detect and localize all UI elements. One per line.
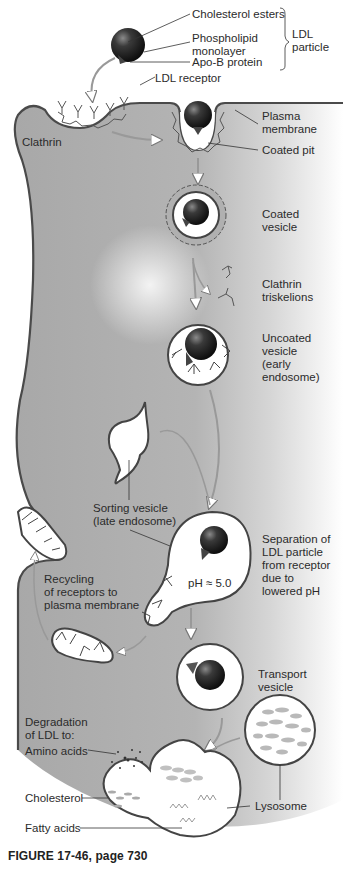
arrow-down-to-pit	[91, 58, 115, 98]
label-phospholipid-monolayer: Phospholipid monolayer	[192, 32, 258, 58]
ldl-particle-in-pit-icon	[184, 101, 212, 129]
label-coated-vesicle: Coated vesicle	[262, 208, 299, 234]
figure-caption: FIGURE 17-46, page 730	[8, 849, 148, 863]
label-fatty-acids: Fatty acids	[25, 822, 81, 835]
label-lysosome: Lysosome	[255, 800, 307, 813]
label-uncoated-vesicle: Uncoated vesicle (early endosome)	[262, 332, 320, 384]
label-sorting-vesicle: Sorting vesicle (late endosome)	[93, 502, 176, 528]
label-apo-b-protein: Apo-B protein	[192, 56, 262, 69]
label-recycling: Recycling of receptors to plasma membran…	[44, 573, 139, 612]
label-ph-value: pH ≈ 5.0	[188, 577, 231, 590]
label-coated-pit: Coated pit	[262, 144, 314, 157]
label-transport-vesicle: Transport vesicle	[258, 668, 307, 694]
label-cholesterol-esters: Cholesterol esters	[192, 8, 285, 21]
label-separation: Separation of LDL particle from receptor…	[262, 533, 330, 598]
label-clathrin: Clathrin	[22, 136, 62, 149]
label-ldl-receptor: LDL receptor	[155, 72, 221, 85]
ldl-particle-transport-icon	[195, 660, 225, 690]
label-cholesterol: Cholesterol	[25, 792, 83, 805]
label-degradation: Degradation of LDL to:	[25, 716, 88, 742]
ldl-particle-icon	[111, 28, 145, 62]
label-plasma-membrane: Plasma membrane	[262, 110, 317, 136]
label-amino-acids: Amino acids	[25, 745, 88, 758]
label-clathrin-triskelions: Clathrin triskelions	[262, 278, 313, 304]
ldl-particle-uncoated-icon	[185, 328, 217, 360]
label-ldl-particle: LDL particle	[292, 28, 329, 54]
